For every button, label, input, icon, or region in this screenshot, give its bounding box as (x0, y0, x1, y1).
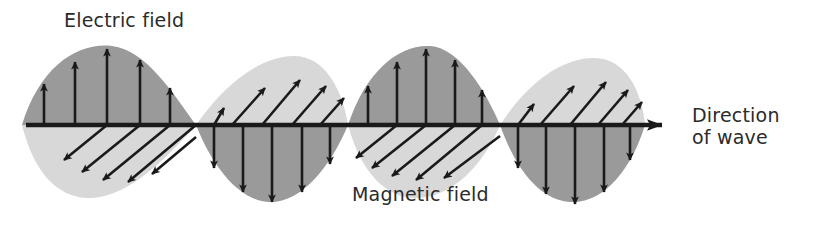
electromagnetic-wave-diagram: Electric field Magnetic field Direction … (0, 0, 821, 230)
magnetic-lobe-4 (500, 58, 645, 125)
electric-field-label: Electric field (64, 9, 184, 31)
magnetic-lobe-1 (22, 125, 196, 198)
direction-label-line-2: of wave (692, 126, 812, 148)
direction-of-wave-label: Direction of wave (692, 104, 812, 149)
direction-label-line-1: Direction (692, 104, 812, 126)
magnetic-field-label: Magnetic field (352, 183, 489, 205)
electric-lobe-4 (500, 125, 645, 202)
electric-lobe-3 (348, 46, 500, 125)
